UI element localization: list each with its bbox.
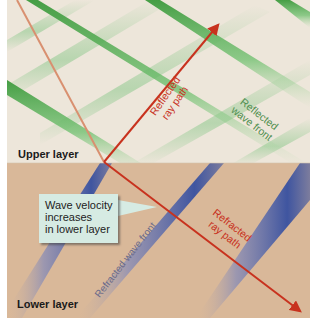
- lower-layer-label: Lower layer: [17, 298, 78, 310]
- callout-line-2: increases: [45, 211, 118, 223]
- upper-layer-label: Upper layer: [18, 148, 79, 160]
- callout-line-3: in lower layer: [45, 223, 118, 235]
- velocity-callout: Wave velocity increases in lower layer: [39, 194, 118, 243]
- refraction-diagram: Reflected ray path Reflected wave front …: [0, 0, 320, 324]
- callout-line-1: Wave velocity: [45, 199, 118, 211]
